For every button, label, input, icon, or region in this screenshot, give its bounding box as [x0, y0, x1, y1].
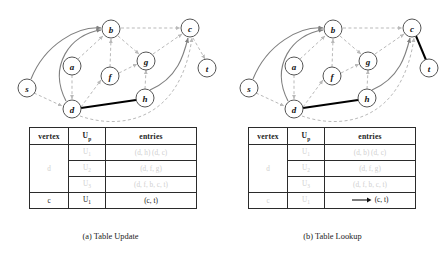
node-label-c: c	[410, 24, 414, 34]
panel-a: s a b c d f g h t	[0, 0, 221, 260]
cell-vertex: c	[30, 193, 69, 209]
cell-up: U3	[69, 177, 106, 193]
cell-entries: (c, t)	[325, 193, 416, 209]
cell-up-sub: 3	[88, 183, 91, 189]
cell-up: U1	[288, 145, 325, 161]
node-label-h: h	[364, 94, 369, 104]
header-up-sub: p	[88, 135, 91, 141]
caption-b: (b) Table Lookup	[222, 232, 443, 241]
node-label-a: a	[292, 62, 297, 72]
cell-up-sub: 1	[307, 199, 310, 205]
node-label-s: s	[246, 84, 251, 94]
cell-up-sub: 2	[88, 167, 91, 173]
header-entries: entries	[106, 128, 197, 145]
node-label-b: b	[109, 25, 114, 35]
table-header-row: vertex Up entries	[249, 128, 416, 145]
cell-vertex: c	[249, 193, 288, 209]
cell-entries: (d, h) (d, c)	[106, 145, 197, 161]
bold-edge-d-h	[303, 100, 358, 108]
header-entries: entries	[325, 128, 416, 145]
cell-entries: (d, f, g)	[106, 161, 197, 177]
bold-edge-c-t	[416, 36, 426, 60]
lookup-table: vertex Up entries d U1 (d, b) (d, c) U2 …	[248, 127, 416, 209]
cell-up-sub: 1	[88, 199, 91, 205]
cell-up-sub: 2	[307, 167, 310, 173]
cell-entries-text: (c, t)	[375, 196, 389, 204]
cell-up-sub: 1	[88, 151, 91, 157]
solid-edge-group	[253, 28, 410, 101]
cell-entries: (d, b) (d, c)	[325, 145, 416, 161]
update-table: vertex Up entries d U1 (d, h) (d, c) U2 …	[29, 127, 197, 209]
node-label-s: s	[24, 84, 29, 94]
node-label-h: h	[142, 94, 147, 104]
table-row: c U1 (c, t)	[30, 193, 197, 209]
header-vertex: vertex	[30, 128, 69, 145]
cell-vertex: d	[30, 145, 69, 193]
cell-up: U3	[288, 177, 325, 193]
header-up-sub: p	[307, 135, 310, 141]
node-label-c: c	[188, 24, 192, 34]
cell-entries: (c, t)	[106, 193, 197, 209]
cell-entries: (d, f, b, c, t)	[325, 177, 416, 193]
graph-b: s a b c d f g h t	[222, 4, 443, 122]
header-vertex: vertex	[249, 128, 288, 145]
cell-up: U1	[69, 193, 106, 209]
figure-root: s a b c d f g h t	[0, 0, 443, 260]
panel-b: s a b c d f g h t	[222, 0, 443, 260]
cell-up: U1	[288, 193, 325, 209]
table-wrap-a: vertex Up entries d U1 (d, h) (d, c) U2 …	[29, 127, 193, 209]
cell-vertex: d	[249, 145, 288, 193]
cell-up: U2	[69, 161, 106, 177]
table-wrap-b: vertex Up entries d U1 (d, b) (d, c) U2 …	[248, 127, 412, 209]
cell-entries: (d, f, g)	[325, 161, 416, 177]
cell-up: U1	[69, 145, 106, 161]
cell-up-sub: 1	[307, 151, 310, 157]
solid-edge-group	[31, 28, 188, 101]
caption-a: (a) Table Update	[0, 232, 221, 241]
header-up: Up	[69, 128, 106, 145]
cell-up-sub: 3	[307, 183, 310, 189]
node-label-d: d	[70, 105, 75, 115]
bold-edge-d-h	[81, 100, 136, 108]
node-label-d: d	[292, 105, 297, 115]
table-row: c U1 (c, t)	[249, 193, 416, 209]
header-up: Up	[288, 128, 325, 145]
graph-a: s a b c d f g h t	[0, 4, 221, 122]
right-arrow-icon	[352, 197, 372, 205]
node-label-g: g	[365, 57, 371, 67]
cell-up: U2	[288, 161, 325, 177]
table-row: d U1 (d, b) (d, c)	[249, 145, 416, 161]
node-label-b: b	[331, 25, 336, 35]
cell-entries: (d, f, b, c, t)	[106, 177, 197, 193]
table-row: d U1 (d, h) (d, c)	[30, 145, 197, 161]
node-label-g: g	[143, 57, 149, 67]
table-header-row: vertex Up entries	[30, 128, 197, 145]
node-label-a: a	[70, 62, 75, 72]
